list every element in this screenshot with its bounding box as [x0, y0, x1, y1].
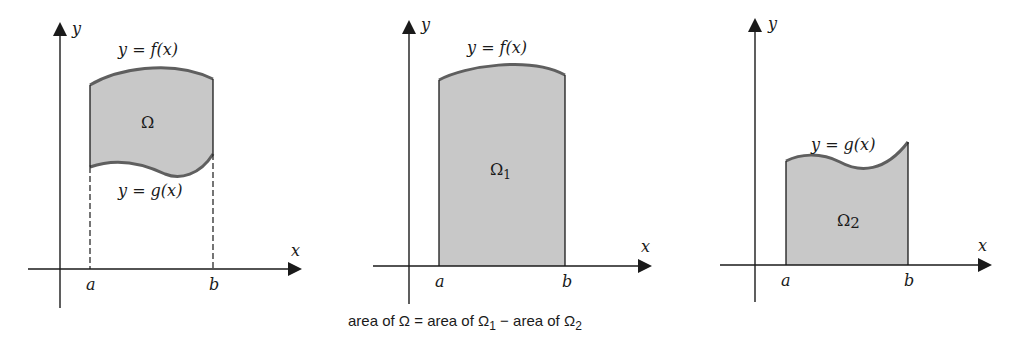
y-axis-label: y: [767, 14, 778, 33]
x-axis-label: x: [291, 241, 300, 260]
tick-a: a: [435, 272, 445, 291]
x-axis-label: x: [641, 237, 650, 256]
caption-area-equation: area of Ω = area of Ω1 − area of Ω2: [348, 312, 582, 333]
tick-b: b: [562, 272, 572, 291]
panel-omega2: y x a b y = g(x) Ω2: [720, 14, 990, 302]
tick-a: a: [781, 271, 791, 290]
tick-b: b: [904, 271, 914, 290]
tick-a: a: [86, 275, 96, 294]
label-g: y = g(x): [117, 181, 182, 200]
label-f: y = f(x): [117, 40, 178, 59]
region-label-omega2: Ω2: [837, 211, 860, 232]
region-label-omega: Ω: [141, 113, 154, 132]
y-axis-label: y: [71, 19, 82, 38]
label-f: y = f(x): [466, 38, 527, 57]
label-g: y = g(x): [810, 135, 875, 154]
tick-b: b: [209, 275, 219, 294]
panel-omega: y x a b y = f(x) y = g(x) Ω: [28, 19, 300, 308]
x-axis-label: x: [978, 236, 987, 255]
area-between-curves-diagram: y x a b y = f(x) y = g(x) Ω y x a b y = …: [0, 0, 1013, 350]
y-axis-label: y: [420, 15, 431, 34]
panel-omega1: y x a b y = f(x) Ω1: [373, 15, 650, 304]
